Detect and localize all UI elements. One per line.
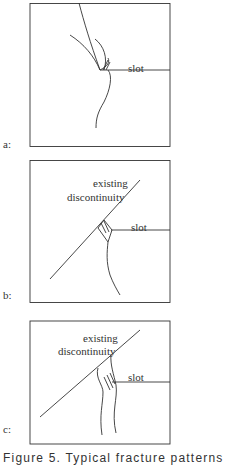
panel-c-discontinuity-line2: discontinuity	[58, 345, 116, 357]
panel-c-crack-right	[111, 354, 117, 433]
panel-b-label: b:	[3, 289, 12, 301]
panel-a-crack-upper	[79, 3, 100, 70]
panel-b-discontinuity-line1: existing	[93, 177, 128, 189]
panel-b-crack-lower	[107, 242, 120, 295]
panel-c-label: c:	[3, 423, 11, 435]
panel-b-slot-label: slot	[131, 221, 147, 233]
panel-c-slot-label: slot	[128, 371, 144, 383]
panel-a-slot-label: slot	[128, 62, 144, 74]
panel-c-discontinuity-line1: existing	[83, 332, 118, 344]
panel-a-frame	[30, 4, 170, 147]
panel-c-crack-left	[97, 368, 103, 435]
panel-a-label: a:	[3, 138, 11, 150]
panel-b-discontinuity-line2: discontinuity	[67, 191, 125, 203]
panel-a-crack-lower	[96, 70, 111, 128]
figure-caption: Figure 5. Typical fracture patterns	[3, 451, 224, 465]
